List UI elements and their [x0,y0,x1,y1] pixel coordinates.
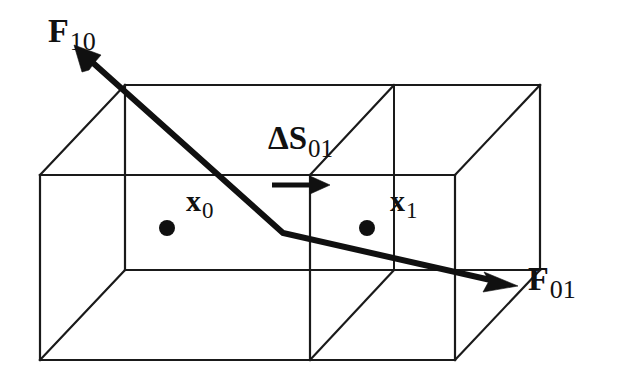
flux-arrow-head [310,176,330,194]
force-10-symbol: F [48,12,69,49]
delta-s-symbol: ΔS [268,120,307,156]
label-force-01: F01 [528,262,575,296]
flux-arrow [272,176,330,194]
label-node-x1: x1 [390,186,417,216]
node-x0-subscript: 0 [202,198,214,223]
depth-edge-bottom-left [40,270,125,360]
depth-edge-divider-bottom [310,270,394,360]
force-polyline [92,62,495,281]
figure-root: F10 F01 ΔS01 x0 x1 [0,0,619,384]
delta-s-subscript: 01 [308,135,333,162]
label-delta-s-01: ΔS01 [268,122,332,155]
node-dot-x0 [159,220,175,236]
node-x1-symbol: x [390,184,405,217]
cell-pair-diagram [0,0,619,384]
depth-edge-top-left [40,85,125,175]
node-x0-symbol: x [186,184,201,217]
force-vector-pair [74,45,518,292]
depth-edge-top-right [455,85,540,175]
force-arrow-head-f01 [483,272,518,292]
label-force-10: F10 [48,14,95,48]
force-10-subscript: 10 [70,27,96,56]
label-node-x0: x0 [186,186,213,216]
force-01-subscript: 01 [550,275,576,304]
node-x1-subscript: 1 [406,198,418,223]
force-01-symbol: F [528,260,549,297]
node-dot-x1 [359,220,375,236]
